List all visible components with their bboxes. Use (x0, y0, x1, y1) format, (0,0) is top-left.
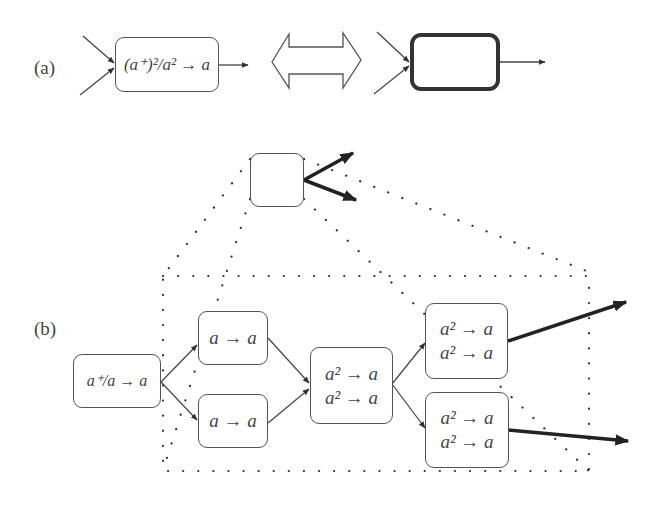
abstract-node-b (250, 153, 304, 207)
diagram-canvas (0, 0, 661, 510)
node-n5: a² → a a² → a (425, 392, 509, 468)
abstract-node-a (410, 33, 500, 91)
abstract-node-outputs (304, 153, 356, 200)
rule-text: (a⁺)²/a² → a (124, 53, 210, 77)
node-n0: a⁺/a → a (73, 354, 161, 408)
node-n2: a → a (198, 394, 268, 448)
node-n1: a → a (198, 311, 268, 365)
panel-b-label: (b) (34, 318, 56, 340)
rule-node-a: (a⁺)²/a² → a (115, 37, 219, 92)
node-n3: a² → a a² → a (310, 347, 393, 424)
network-output-arrows (508, 302, 628, 441)
node-n4: a² → a a² → a (425, 303, 508, 379)
equivalence-arrow-icon (272, 33, 361, 88)
panel-a-label: (a) (34, 57, 55, 79)
